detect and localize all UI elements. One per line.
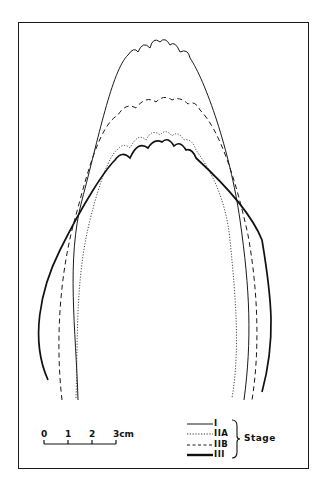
outline-stage-IIB bbox=[59, 97, 257, 400]
scale-tick-0: 0 bbox=[41, 429, 47, 439]
scale-bar bbox=[44, 440, 116, 444]
legend-label-IIA: IIA bbox=[214, 428, 228, 438]
legend-title-stage: Stage bbox=[244, 433, 276, 443]
legend-label-IIB: IIB bbox=[214, 439, 228, 449]
scale-tick-2: 2 bbox=[89, 429, 95, 439]
legend-label-I: I bbox=[214, 418, 218, 428]
figure: 0 1 2 3cm I IIA IIB III Stage bbox=[0, 0, 326, 489]
outline-stage-IIA bbox=[76, 132, 236, 398]
outline-stage-I bbox=[73, 40, 249, 400]
legend-label-III: III bbox=[214, 449, 225, 459]
scale-tick-1: 1 bbox=[65, 429, 71, 439]
scale-tick-3cm: 3cm bbox=[113, 429, 134, 439]
outline-drawing bbox=[0, 0, 326, 489]
